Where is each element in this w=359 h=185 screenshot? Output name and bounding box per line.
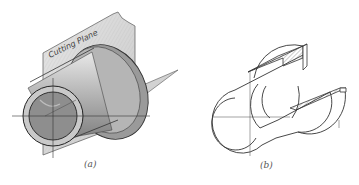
figure-a-drawing: Cutting Plane [0, 0, 180, 185]
figure-a: Cutting Plane (a) [0, 0, 180, 185]
center-lines [212, 72, 339, 156]
figure-b-drawing [180, 0, 359, 185]
figure-b: (b) [180, 0, 359, 185]
caption-a: (a) [84, 159, 96, 169]
section-outline [212, 45, 346, 153]
caption-b: (b) [260, 160, 273, 170]
